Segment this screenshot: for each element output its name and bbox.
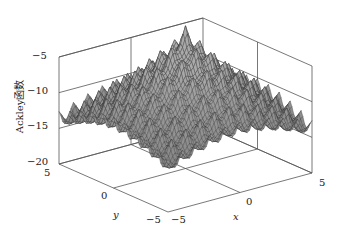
y-tick-minus5: −5 xyxy=(146,214,161,225)
ackley-surface-chart: −5 −10 −15 −20 Ackley函数 5 0 −5 y −5 0 5 … xyxy=(0,0,340,244)
z-tick-minus15: −15 xyxy=(27,120,48,131)
y-tick-5: 5 xyxy=(44,167,50,178)
z-tick-minus10: −10 xyxy=(27,85,48,96)
y-axis-label: y xyxy=(113,209,119,220)
x-tick-minus5: −5 xyxy=(171,214,186,225)
y-tick-0: 0 xyxy=(101,190,107,201)
surface-mesh xyxy=(59,26,312,168)
x-tick-0: 0 xyxy=(246,196,252,207)
plot-area xyxy=(0,0,340,244)
z-tick-minus5: −5 xyxy=(32,50,47,61)
z-tick-minus20: −20 xyxy=(27,156,48,167)
z-axis-label: Ackley函数 xyxy=(11,80,26,134)
x-axis-label: x xyxy=(233,211,239,222)
x-tick-5: 5 xyxy=(319,177,325,188)
